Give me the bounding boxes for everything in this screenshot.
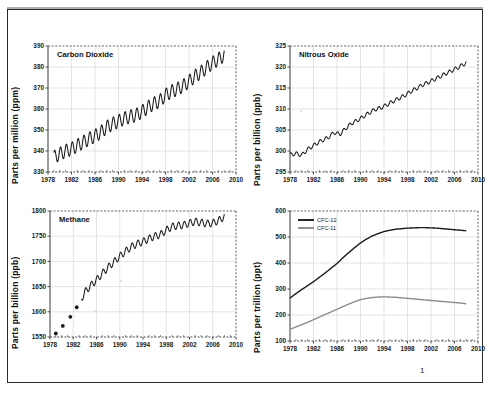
svg-text:330: 330: [33, 168, 44, 175]
svg-text:295: 295: [275, 168, 286, 175]
svg-text:2010: 2010: [229, 176, 244, 183]
y-axis-title-methane: Parts per billion (ppb): [10, 227, 20, 349]
svg-text:1550: 1550: [32, 333, 47, 340]
svg-text:400: 400: [275, 259, 286, 266]
chart-svg-cfcs: 1002003004005006001978198219861990199419…: [264, 203, 490, 365]
svg-text:360: 360: [33, 105, 44, 112]
svg-text:340: 340: [33, 147, 44, 154]
svg-text:1800: 1800: [32, 207, 47, 214]
svg-text:500: 500: [275, 233, 286, 240]
svg-text:1998: 1998: [159, 341, 174, 348]
svg-text:2006: 2006: [447, 176, 462, 183]
svg-text:2010: 2010: [471, 345, 486, 352]
svg-text:1998: 1998: [158, 176, 173, 183]
svg-text:2002: 2002: [182, 341, 197, 348]
svg-text:1994: 1994: [377, 176, 392, 183]
svg-text:1982: 1982: [64, 176, 79, 183]
svg-text:1990: 1990: [113, 341, 128, 348]
svg-text:1986: 1986: [88, 176, 103, 183]
svg-text:600: 600: [275, 207, 286, 214]
svg-text:350: 350: [33, 126, 44, 133]
svg-text:1982: 1982: [306, 176, 321, 183]
chart-panel-nitrous-oxide: Parts per billion (ppb) 2953003053103153…: [250, 38, 490, 196]
svg-text:2010: 2010: [229, 341, 244, 348]
svg-text:200: 200: [275, 311, 286, 318]
svg-text:1978: 1978: [43, 341, 58, 348]
svg-text:1994: 1994: [377, 345, 392, 352]
svg-text:300: 300: [275, 147, 286, 154]
y-axis-title-cfcs: Parts per trillion (ppt): [252, 225, 262, 353]
svg-text:1994: 1994: [136, 341, 151, 348]
y-axis-title-nitrous-oxide: Parts per billion (ppb): [252, 64, 262, 186]
chart-svg-methane: 1550160016501700175018001978198219861990…: [22, 203, 248, 365]
svg-text:1750: 1750: [32, 232, 47, 239]
scanned-figure-page: Parts per million (ppm) 3303403503603703…: [0, 0, 495, 401]
svg-text:Methane: Methane: [59, 215, 90, 224]
chart-panel-methane: Parts per billion (ppb) 1550160016501700…: [8, 203, 248, 368]
svg-text:CFC-11: CFC-11: [317, 225, 336, 231]
svg-text:390: 390: [33, 42, 44, 49]
svg-text:2002: 2002: [424, 345, 439, 352]
svg-text:310: 310: [275, 105, 286, 112]
svg-text:1998: 1998: [400, 345, 415, 352]
svg-text:2010: 2010: [471, 176, 486, 183]
svg-text:1990: 1990: [111, 176, 126, 183]
svg-text:1986: 1986: [330, 176, 345, 183]
svg-text:Nitrous Oxide: Nitrous Oxide: [299, 50, 349, 59]
svg-text:325: 325: [275, 42, 286, 49]
svg-text:1978: 1978: [283, 176, 298, 183]
svg-text:370: 370: [33, 84, 44, 91]
chart-svg-carbon-dioxide: 3303403503603703803901978198219861990199…: [22, 38, 248, 196]
svg-text:2002: 2002: [424, 176, 439, 183]
chart-panel-cfcs: Parts per trillion (ppt) 100200300400500…: [250, 203, 490, 368]
chart-panel-carbon-dioxide: Parts per million (ppm) 3303403503603703…: [8, 38, 248, 196]
svg-text:1978: 1978: [41, 176, 56, 183]
svg-text:1986: 1986: [330, 345, 345, 352]
svg-text:1982: 1982: [66, 341, 81, 348]
svg-text:100: 100: [275, 337, 286, 344]
svg-text:305: 305: [275, 126, 286, 133]
svg-text:1998: 1998: [400, 176, 415, 183]
chart-svg-nitrous-oxide: 2953003053103153203251978198219861990199…: [264, 38, 490, 196]
svg-text:1700: 1700: [32, 258, 47, 265]
y-axis-title-carbon-dioxide: Parts per million (ppm): [10, 64, 20, 184]
page-number: 1: [420, 366, 424, 375]
svg-text:1982: 1982: [306, 345, 321, 352]
svg-text:1990: 1990: [353, 345, 368, 352]
svg-text:300: 300: [275, 285, 286, 292]
svg-text:2006: 2006: [206, 341, 221, 348]
svg-text:1990: 1990: [353, 176, 368, 183]
svg-text:2006: 2006: [447, 345, 462, 352]
svg-text:1650: 1650: [32, 283, 47, 290]
svg-text:Carbon Dioxide: Carbon Dioxide: [57, 50, 113, 59]
svg-text:2006: 2006: [205, 176, 220, 183]
svg-text:380: 380: [33, 63, 44, 70]
svg-text:1600: 1600: [32, 308, 47, 315]
svg-text:2002: 2002: [182, 176, 197, 183]
svg-text:315: 315: [275, 84, 286, 91]
svg-text:320: 320: [275, 63, 286, 70]
svg-text:1994: 1994: [135, 176, 150, 183]
svg-text:CFC-12: CFC-12: [317, 217, 337, 223]
svg-text:1986: 1986: [89, 341, 104, 348]
svg-text:1978: 1978: [283, 345, 298, 352]
